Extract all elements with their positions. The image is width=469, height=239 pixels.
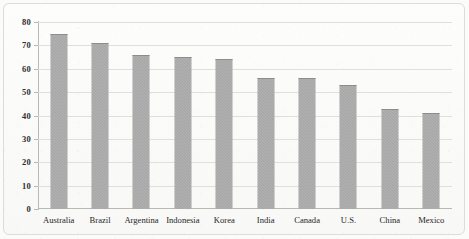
bar-group: Indonesia bbox=[162, 22, 203, 209]
bar[interactable] bbox=[92, 43, 109, 209]
y-tick-label-40: 40 bbox=[22, 111, 31, 121]
y-tick-label-30: 30 bbox=[22, 134, 31, 144]
bar[interactable] bbox=[299, 78, 316, 209]
bar-group: U.S. bbox=[328, 22, 369, 209]
plot-area: 01020304050607080 AustraliaBrazilArgenti… bbox=[38, 22, 452, 209]
y-tick-label-10: 10 bbox=[22, 181, 31, 191]
bar-group: China bbox=[369, 22, 410, 209]
bar[interactable] bbox=[216, 59, 233, 209]
x-tick-label: China bbox=[380, 215, 401, 225]
y-tick-label-50: 50 bbox=[22, 87, 31, 97]
x-tick-label: India bbox=[257, 215, 275, 225]
bar-group: India bbox=[245, 22, 286, 209]
x-tick-label: Indonesia bbox=[166, 215, 199, 225]
y-tick-label-20: 20 bbox=[22, 157, 31, 167]
bar-group: Mexico bbox=[411, 22, 452, 209]
bar[interactable] bbox=[381, 109, 398, 210]
x-tick-label: U.S. bbox=[341, 215, 356, 225]
bar[interactable] bbox=[340, 85, 357, 209]
y-tick-mark-0 bbox=[34, 209, 38, 210]
y-tick-label-0: 0 bbox=[27, 204, 31, 214]
bar-group: Canada bbox=[286, 22, 327, 209]
x-tick-label: Argentina bbox=[124, 215, 158, 225]
x-tick-label: Australia bbox=[43, 215, 75, 225]
bar-group: Australia bbox=[38, 22, 79, 209]
bar[interactable] bbox=[50, 34, 67, 209]
bar[interactable] bbox=[423, 113, 440, 209]
x-tick-label: Canada bbox=[294, 215, 320, 225]
bar[interactable] bbox=[133, 55, 150, 209]
bar[interactable] bbox=[174, 57, 191, 209]
y-tick-label-80: 80 bbox=[22, 17, 31, 27]
bar[interactable] bbox=[257, 78, 274, 209]
y-tick-label-60: 60 bbox=[22, 64, 31, 74]
chart-screenshot: 01020304050607080 AustraliaBrazilArgenti… bbox=[0, 0, 469, 239]
bar-group: Argentina bbox=[121, 22, 162, 209]
y-tick-label-70: 70 bbox=[22, 40, 31, 50]
x-tick-label: Mexico bbox=[418, 215, 444, 225]
bar-group: Brazil bbox=[79, 22, 120, 209]
x-tick-label: Korea bbox=[214, 215, 235, 225]
bar-series: AustraliaBrazilArgentinaIndonesiaKoreaIn… bbox=[38, 22, 452, 209]
x-tick-label: Brazil bbox=[90, 215, 111, 225]
bar-group: Korea bbox=[204, 22, 245, 209]
